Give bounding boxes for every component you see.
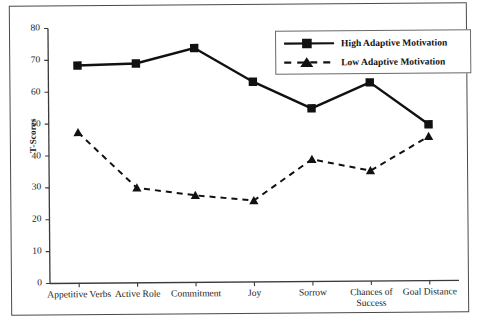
y-axis-tick-label: 0	[16, 278, 42, 288]
series-line	[78, 130, 429, 202]
legend-entry-low: Low Adaptive Motivation	[282, 52, 445, 71]
data-point-square-icon	[424, 120, 432, 128]
series-low-adaptive-motivation	[73, 125, 433, 206]
chart-legend: High Adaptive Motivation Low Adaptive Mo…	[275, 29, 471, 75]
data-point-square-icon	[366, 78, 374, 86]
data-point-square-icon	[249, 77, 257, 85]
data-point-square-icon	[190, 44, 198, 52]
y-axis-tick-label: 30	[15, 182, 41, 192]
data-point-square-icon	[307, 104, 315, 112]
data-point-triangle-icon	[424, 132, 433, 140]
data-point-square-icon	[132, 59, 140, 67]
data-point-triangle-icon	[366, 166, 375, 174]
y-axis-tick-label: 50	[15, 118, 41, 128]
y-axis-tick-label: 60	[14, 86, 40, 96]
figure-root: T-Scores High Adaptive Motivation Low Ad…	[0, 0, 481, 327]
legend-label-low: Low Adaptive Motivation	[341, 56, 445, 67]
x-axis-tick-label: Goal Distance	[393, 286, 467, 298]
data-point-triangle-icon	[73, 128, 82, 136]
y-axis-tick-label: 70	[14, 54, 40, 64]
data-point-square-icon	[73, 61, 81, 69]
legend-entry-high: High Adaptive Motivation	[282, 33, 447, 52]
y-axis-tick-label: 10	[16, 246, 42, 256]
figure-outer-border: T-Scores High Adaptive Motivation Low Ad…	[9, 2, 469, 316]
data-point-triangle-icon	[307, 155, 316, 163]
data-point-triangle-icon	[132, 183, 141, 191]
y-axis-tick-label: 40	[15, 150, 41, 160]
legend-label-high: High Adaptive Motivation	[341, 37, 447, 48]
legend-swatch-dashed-triangle-icon	[282, 55, 336, 69]
y-axis-tick-label: 80	[14, 23, 40, 33]
y-axis-tick-label: 20	[15, 214, 41, 224]
legend-swatch-solid-square-icon	[282, 36, 336, 50]
